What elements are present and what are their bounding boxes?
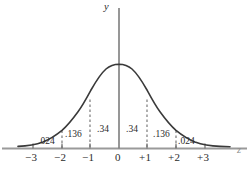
- x-tick-label-plus1: +1: [139, 152, 151, 163]
- bell-curve-plot: [0, 0, 249, 182]
- x-tick-label-plus3: +3: [197, 152, 209, 163]
- x-tick-label-minus2: −2: [54, 152, 66, 163]
- normal-curve-path: [18, 64, 230, 147]
- y-axis-label: y: [104, 2, 109, 13]
- x-tick-label-zero: 0: [115, 152, 121, 163]
- x-axis-label: z: [237, 145, 241, 156]
- normal-distribution-figure: y z −3 −2 −1 0 +1 +2 +3 .024 .136 .34 .3…: [0, 0, 249, 182]
- area-label-minus3-to-minus2: .024: [38, 137, 55, 147]
- x-tick-label-minus3: −3: [25, 152, 37, 163]
- x-tick-label-plus2: +2: [168, 152, 180, 163]
- area-label-minus1-to-zero: .34: [97, 125, 109, 135]
- area-label-zero-to-plus1: .34: [126, 125, 138, 135]
- area-label-minus2-to-minus1: .136: [65, 130, 82, 140]
- area-label-plus1-to-plus2: .136: [153, 130, 170, 140]
- x-tick-label-minus1: −1: [82, 152, 94, 163]
- area-label-plus2-to-plus3: .024: [178, 137, 195, 147]
